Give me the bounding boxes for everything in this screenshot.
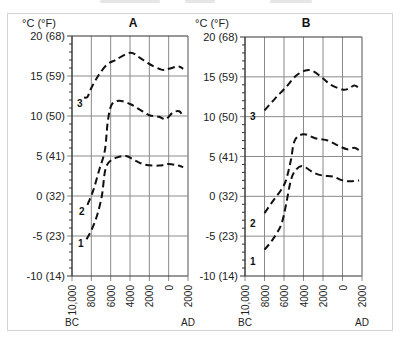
x-tick-label: 4000 (125, 285, 136, 308)
x-tick-label: 2000 (318, 285, 329, 308)
era-label-bc: BC (65, 317, 79, 328)
y-tick-label: 5 (41) (209, 151, 238, 163)
curve-label-2: 2 (250, 218, 256, 229)
y-tick-label: -10 (14) (26, 270, 65, 282)
curve-label-1: 1 (78, 238, 84, 249)
y-axis-unit-label: °C (°F) (195, 17, 229, 29)
era-label-ad: AD (181, 317, 195, 328)
x-tick-label: 0 (164, 285, 175, 291)
y-tick-label: 20 (68) (30, 30, 65, 42)
temperature-curve-2 (265, 134, 360, 213)
x-tick-label: 8000 (86, 285, 97, 308)
panel-title: B (302, 16, 311, 30)
panel-title: A (129, 16, 138, 30)
era-label-ad: AD (355, 317, 369, 328)
curve-label-1: 1 (250, 256, 256, 267)
x-tick-label: 2000 (183, 285, 194, 308)
y-tick-label: 10 (50) (203, 111, 238, 123)
y-tick-label: 5 (41) (36, 150, 65, 162)
chart-canvas: °C (°F)A20 (68)15 (59)10 (50)5 (41)0 (32… (0, 0, 404, 353)
temperature-curve-1 (265, 166, 360, 250)
x-tick-label: 2000 (144, 285, 155, 308)
era-label-bc: BC (238, 317, 252, 328)
x-tick-label: 6000 (106, 285, 117, 308)
x-tick-label: 2000 (357, 285, 368, 308)
x-tick-label: 4000 (299, 285, 310, 308)
chart-panel-b: °C (°F)B20 (68)15 (59)10 (50)5 (41)0 (32… (195, 16, 369, 328)
y-tick-label: -5 (23) (33, 230, 65, 242)
x-tick-label: 8000 (260, 285, 271, 308)
y-tick-label: 0 (32) (209, 190, 238, 202)
chart-panel-a: °C (°F)A20 (68)15 (59)10 (50)5 (41)0 (32… (22, 16, 195, 328)
y-tick-label: 15 (59) (30, 70, 65, 82)
y-tick-label: -5 (23) (206, 230, 238, 242)
y-tick-label: -10 (14) (199, 270, 238, 282)
x-tick-label: 6000 (279, 285, 290, 308)
y-tick-label: 15 (59) (203, 71, 238, 83)
y-axis-unit-label: °C (°F) (22, 17, 56, 29)
curve-label-3: 3 (77, 98, 83, 109)
x-tick-label: 0 (338, 285, 349, 291)
temperature-curve-3 (265, 70, 360, 110)
curve-label-2: 2 (79, 206, 85, 217)
y-tick-label: 10 (50) (30, 110, 65, 122)
x-tick-label: 10,000 (240, 285, 251, 316)
x-tick-label: 10,000 (67, 285, 78, 316)
y-tick-label: 0 (32) (36, 190, 65, 202)
curve-label-3: 3 (250, 111, 256, 122)
y-tick-label: 20 (68) (203, 31, 238, 43)
